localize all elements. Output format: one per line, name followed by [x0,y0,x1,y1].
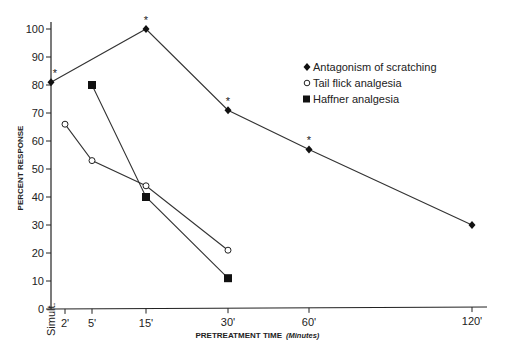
circle-marker-icon [143,183,149,189]
x-tick-label: 2' [61,317,69,329]
y-tick-label: 50 [32,163,44,175]
significance-star: * [53,67,58,79]
square-marker-icon [224,274,232,282]
series-layer: **** [48,14,476,282]
x-tick-label: 30' [221,316,235,328]
series-tail-flick-analgesia [62,121,231,253]
square-marker-icon [88,81,96,89]
circle-marker-icon [89,158,95,164]
diamond-filled-icon [304,63,311,71]
series-line [51,29,472,225]
x-axis [51,307,487,309]
x-tick-label: 60' [302,316,316,328]
circle-marker-icon [225,247,231,253]
diamond-marker-icon [306,145,313,153]
line-chart: 0102030405060708090100 Simult.2'5'15'30'… [0,0,505,361]
circle-marker-icon [62,121,68,127]
legend-item-haffner: Haffner analgesia [303,93,400,105]
x-tick-label: 15' [139,317,153,329]
circle-open-icon [304,80,310,86]
square-marker-icon [142,193,150,201]
x-tick-label: Simult. [45,302,57,336]
legend-label: Tail flick analgesia [313,77,403,89]
series-antagonism-of-scratching: **** [48,14,476,229]
x-tick-label: 120' [462,315,482,327]
y-tick-label: 80 [32,79,44,91]
y-tick-label: 20 [32,247,44,259]
y-tick-label: 40 [32,191,44,203]
legend-label: Haffner analgesia [313,93,400,105]
y-axis-title: PERCENT RESPONSE [16,125,25,211]
y-tick-label: 0 [38,303,44,315]
diamond-marker-icon [469,221,476,229]
y-tick-label: 10 [32,275,44,287]
legend-item-tail-flick: Tail flick analgesia [304,77,402,89]
y-axis-ticks: 0102030405060708090100 [26,23,51,315]
x-axis-title-unit: (Minutes) [286,331,320,340]
x-axis-title: PRETREATMENT TIME [195,331,282,340]
square-filled-icon [303,96,310,103]
series-line [92,85,228,278]
significance-star: * [307,134,312,146]
x-tick-label: 5' [88,317,96,329]
y-tick-label: 100 [26,23,44,35]
y-tick-label: 60 [32,135,44,147]
significance-star: * [144,14,149,26]
significance-star: * [226,95,231,107]
legend-item-antagonism: Antagonism of scratching [304,61,437,73]
x-axis-title-main: PRETREATMENT TIME [195,331,282,340]
y-tick-label: 30 [32,219,44,231]
y-tick-label: 70 [32,107,44,119]
y-tick-label: 90 [32,51,44,63]
legend: Antagonism of scratching Tail flick anal… [303,61,437,105]
series-haffner-analgesia [88,81,232,282]
legend-label: Antagonism of scratching [313,61,437,73]
